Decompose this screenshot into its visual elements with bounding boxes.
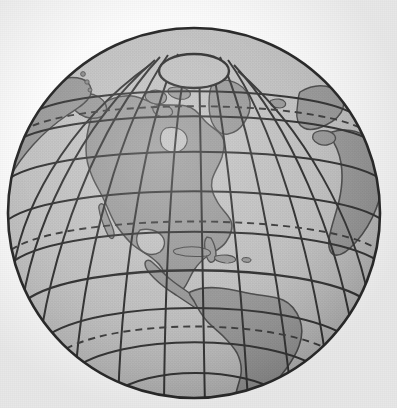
sphere-shading <box>8 28 380 398</box>
globe-figure <box>0 0 397 408</box>
globe-illustration <box>0 0 397 408</box>
